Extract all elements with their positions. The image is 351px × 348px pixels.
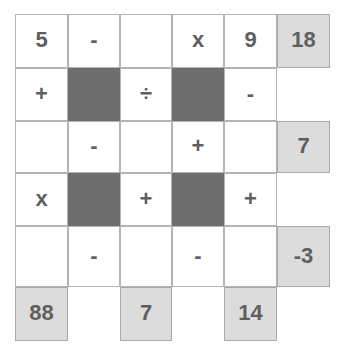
blank-cell-r3-c5[interactable]: [224, 121, 277, 173]
operator-cell-r3-c2[interactable]: -: [68, 121, 120, 173]
operator-cell-r5-c2[interactable]: -: [68, 226, 120, 287]
blank-cell-r5-c3[interactable]: [120, 226, 172, 287]
empty-space-r6-c4: [172, 287, 224, 341]
operator-cell-r4-c3[interactable]: +: [120, 173, 172, 226]
operator-cell-r5-c2-label: -: [90, 245, 97, 267]
operator-cell-r2-c1-label: +: [35, 83, 48, 105]
blank-cell-r3-c3[interactable]: [120, 121, 172, 173]
answer-cell-r3-c6-label: 7: [297, 135, 309, 157]
answer-cell-r6-c1: 88: [15, 287, 68, 341]
operator-cell-r4-c1[interactable]: x: [15, 173, 68, 226]
blocked-cell-r2-c2: [68, 68, 120, 121]
operator-cell-r4-c5[interactable]: +: [224, 173, 277, 226]
operator-cell-r2-c3[interactable]: ÷: [120, 68, 172, 121]
answer-cell-r6-c5: 14: [224, 287, 277, 341]
blank-cell-r5-c1[interactable]: [15, 226, 68, 287]
blocked-cell-r4-c4: [172, 173, 224, 226]
empty-space-r6-c2: [68, 287, 120, 341]
number-cell-r1-c5[interactable]: 9: [224, 14, 277, 68]
number-cell-r1-c1-label: 5: [35, 29, 47, 51]
blocked-cell-r2-c4: [172, 68, 224, 121]
answer-cell-r3-c6: 7: [277, 121, 330, 173]
operator-cell-r4-c1-label: x: [35, 188, 47, 210]
blocked-cell-r4-c2: [68, 173, 120, 226]
answer-cell-r5-c6: -3: [277, 226, 330, 287]
empty-space-r6-c6: [277, 287, 330, 341]
empty-space-r4-c6: [277, 173, 330, 226]
operator-cell-r5-c4[interactable]: -: [172, 226, 224, 287]
answer-cell-r5-c6-label: -3: [294, 245, 314, 267]
blank-cell-r5-c5[interactable]: [224, 226, 277, 287]
answer-cell-r6-c1-label: 88: [29, 302, 53, 324]
answer-cell-r1-c6-label: 18: [291, 29, 315, 51]
blank-cell-r3-c1[interactable]: [15, 121, 68, 173]
answer-cell-r6-c5-label: 14: [238, 302, 262, 324]
operator-cell-r1-c4[interactable]: x: [172, 14, 224, 68]
answer-cell-r6-c3: 7: [120, 287, 172, 341]
operator-cell-r2-c5[interactable]: -: [224, 68, 277, 121]
operator-cell-r4-c5-label: +: [244, 188, 257, 210]
operator-cell-r4-c3-label: +: [140, 188, 153, 210]
operator-cell-r1-c2[interactable]: -: [68, 14, 120, 68]
number-cell-r1-c5-label: 9: [244, 29, 256, 51]
number-cell-r1-c1[interactable]: 5: [15, 14, 68, 68]
operator-cell-r3-c2-label: -: [90, 135, 97, 157]
operator-cell-r3-c4[interactable]: +: [172, 121, 224, 173]
answer-cell-r6-c3-label: 7: [140, 302, 152, 324]
empty-space-r2-c6: [277, 68, 330, 121]
puzzle-grid: 5-x918+÷--+7x++---388714: [0, 0, 351, 348]
operator-cell-r2-c5-label: -: [247, 83, 254, 105]
operator-cell-r2-c3-label: ÷: [140, 83, 152, 105]
operator-cell-r1-c2-label: -: [90, 29, 97, 51]
operator-cell-r2-c1[interactable]: +: [15, 68, 68, 121]
operator-cell-r3-c4-label: +: [192, 135, 205, 157]
operator-cell-r5-c4-label: -: [194, 245, 201, 267]
operator-cell-r1-c4-label: x: [192, 29, 204, 51]
answer-cell-r1-c6: 18: [277, 14, 330, 68]
blank-cell-r1-c3[interactable]: [120, 14, 172, 68]
